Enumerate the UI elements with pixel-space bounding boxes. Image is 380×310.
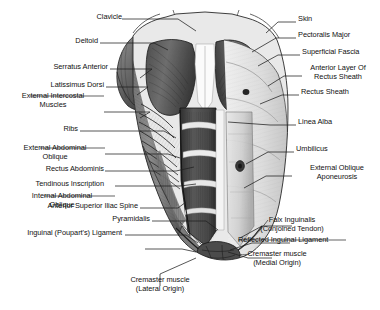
label-deltoid: Deltoid: [6, 37, 98, 46]
umbilicus-shape: [236, 161, 245, 172]
label-rectus-sheath: Rectus Sheath: [301, 88, 379, 97]
label-ribs: Ribs: [4, 125, 78, 134]
label-external-oblique-aponeurosis: External Oblique Aponeurosis: [294, 164, 380, 181]
label-pyramidalis: Pyramidalis: [4, 215, 150, 224]
label-superficial-fascia: Superficial Fascia: [302, 48, 380, 57]
label-skin: Skin: [298, 15, 378, 24]
label-cremaster-muscle-medial-origin: Cremaster muscle (Medial Origin): [222, 250, 332, 267]
label-external-intercostal-muscles: External Intercostal Muscles: [4, 92, 102, 109]
label-reflected-inguinal-ligament: Reflected Inguinal Ligament: [238, 236, 380, 245]
label-external-abdominal-oblique: External Abdominal Oblique: [6, 144, 104, 161]
anatomical-figure: Clavicle Deltoid Serratus Anterior Latis…: [0, 0, 380, 310]
label-cremaster-muscle-lateral-origin: Cremaster muscle (Lateral Origin): [104, 276, 216, 293]
label-pectoralis-major: Pectoralis Major: [298, 31, 380, 40]
label-linea-alba: Linea Alba: [298, 118, 376, 127]
label-inguinal-pouparts-ligament: Inguinal (Poupart's) Ligament: [4, 229, 122, 238]
label-latissimus-dorsi: Latissimus Dorsi: [4, 81, 104, 90]
label-umbilicus: Umbilicus: [296, 145, 374, 154]
label-falx-inguinalis-conjoined-tendon: Falx Inguinalis (Conjoined Tendon): [236, 216, 348, 233]
label-serratus-anterior: Serratus Anterior: [4, 63, 108, 72]
label-anterior-superior-iliac-spine: Anterior Superior Iliac Spine: [4, 202, 138, 211]
label-clavicle: Clavicle: [6, 13, 122, 22]
label-tendinous-inscription: Tendinous Inscription: [4, 180, 104, 189]
label-anterior-layer-of-rectus-sheath: Anterior Layer Of Rectus Sheath: [296, 64, 380, 81]
label-rectus-abdominis: Rectus Abdominis: [4, 165, 104, 174]
